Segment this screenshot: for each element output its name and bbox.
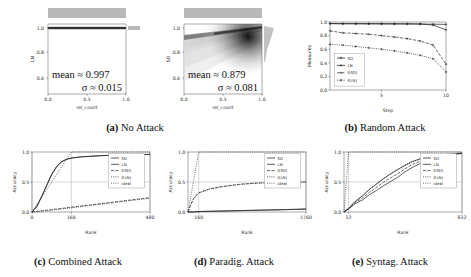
caption-c-text: Combined Attack [48,256,122,267]
annotation-sd-mean: mean ≈ 0.879 [188,69,245,80]
ytick-e-0.0: 0.0 [334,210,341,215]
series-marker-LN [367,22,369,24]
ytick-sd-1.0: 1.0 [173,26,180,31]
ytick-d-0.0: 0.0 [178,210,185,215]
legend-label-SD: SD [278,156,283,161]
xtick-b-10: 10 [443,93,449,98]
legend-label-ideal: ideal [122,181,131,186]
xlabel-ln: rel_count [76,105,97,111]
legend-label-fSD: f(SD) [434,168,444,173]
xtick-c-480: 480 [146,215,155,220]
caption-c: (c) Combined Attack [2,256,154,267]
annotation-ln-mean: mean ≈ 0.997 [52,69,109,80]
panel-a-svg: 1.0 0.8 0.6 0.0 0.5 1.0 rel_count LN mea… [8,2,280,118]
panel-e-svg: 0.00.51.032832 Rank Accuracy SDLNf(SD)f(… [318,146,470,238]
legend-label-SD: SD [122,156,127,161]
series-marker-LN [406,23,408,25]
panel-c-combined-attack: 0.00.51.00160480 Rank Accuracy SDLNf(SD)… [6,146,158,238]
ytick-d-1.0: 1.0 [178,150,185,155]
xtick-sd-0.5: 0.5 [219,97,226,102]
series-marker-LN [445,29,447,31]
ytick-e-0.5: 0.5 [334,180,341,185]
series-marker-fSD [445,63,447,65]
xlabel-c: Rank [85,230,97,235]
caption-d-label: (d) [194,256,207,267]
series-marker-fSD [393,36,395,38]
legend-label-LN: LN [434,162,439,167]
panel-a-no-attack: 1.0 0.8 0.6 0.0 0.5 1.0 rel_count LN mea… [8,2,280,118]
caption-b-label: (b) [344,122,357,133]
figure-root: 1.0 0.8 0.6 0.0 0.5 1.0 rel_count LN mea… [0,0,471,277]
ytick-b-0.6: 0.6 [320,47,327,52]
series-marker-fSD [406,37,408,39]
legend-label-fSD: f(SD) [348,70,358,75]
ytick-ln-0.6: 0.6 [37,76,44,81]
ylabel-ln: LN [30,56,35,62]
density-ln [48,26,126,31]
subpanel-a-right-sd: 1.0 0.8 0.6 0.0 0.5 1.0 rel_count SD mea… [166,8,274,111]
legend-label-fLN: f(LN) [278,175,288,180]
legend-c: SDLNf(SD)f(LN)ideal [109,154,145,189]
ylabel-d: Accuracy [168,171,173,192]
xlabel-e: Rank [397,230,409,235]
series-marker-LN [355,22,357,24]
series-marker-fSD [329,30,331,32]
series-marker-fLN [367,47,369,49]
series-marker-fSD [380,34,382,36]
series-marker-fLN [329,43,331,45]
caption-e-text: Syntag. Attack [366,256,428,267]
legend-label-fLN: f(LN) [348,78,358,83]
legend-label-ideal: ideal [434,181,443,186]
legend-label-fSD: f(SD) [122,168,132,173]
ytick-b-1.0: 1.0 [320,20,327,25]
annotation-sd-sigma: σ ≈ 0.081 [218,82,258,93]
series-marker-fLN [393,50,395,52]
series-line-LN [330,24,446,30]
caption-a-text: No Attack [121,122,164,133]
legend-label-LN: LN [348,63,353,68]
ytick-c-0.0: 0.0 [22,210,29,215]
ytick-b-0.2: 0.2 [320,74,327,79]
ytick-e-1.0: 1.0 [334,150,341,155]
series-marker-fLN [380,48,382,50]
marginal-right-histogram-ln [128,26,140,30]
ytick-ln-1.0: 1.0 [37,26,44,31]
ylabel-e: Accuracy [324,171,329,192]
xtick-ln-0.0: 0.0 [44,97,51,102]
ylabel-c: Accuracy [12,171,17,192]
legend-e: SDLNf(SD)f(LN)ideal [421,154,457,189]
series-marker-LN [342,22,344,24]
xlabel-sd: rel_count [212,105,233,111]
series-marker-fSD [342,32,344,34]
xtick-e-32: 32 [346,215,352,220]
xtick-c-160: 160 [67,215,76,220]
caption-e-label: (e) [352,256,364,267]
xtick-ln-1.0: 1.0 [122,97,129,102]
legend-label-SD: SD [434,156,439,161]
series-marker-fSD [355,32,357,34]
annotation-ln-sigma: σ ≈ 0.015 [82,82,122,93]
panel-b-svg: 0.00.20.40.60.81.0510 Step Measures SDLN… [296,14,464,118]
xtick-d-1760: 1760 [300,215,312,220]
caption-b-text: Random Attack [360,122,426,133]
series-marker-fLN [419,54,421,56]
xlabel-b: Step [383,108,394,113]
xtick-ln-0.5: 0.5 [83,97,90,102]
ytick-b-0.0: 0.0 [320,88,327,93]
ytick-sd-0.6: 0.6 [173,76,180,81]
xtick-b-5: 5 [380,93,383,98]
xlabel-d: Rank [241,230,253,235]
ytick-b-0.8: 0.8 [320,33,327,38]
ylabel-sd: SD [166,55,171,62]
caption-d-text: Paradig. Attack [209,256,274,267]
legend-b: SDLNf(SD)f(LN) [335,54,365,87]
series-marker-fLN [355,45,357,47]
series-marker-fSD [367,33,369,35]
legend-d: SDLNf(SD)f(LN)ideal [265,154,301,189]
legend-label-fLN: f(LN) [434,175,444,180]
series-line-LN [188,209,306,212]
caption-a-label: (a) [106,122,118,133]
ytick-ln-0.8: 0.8 [37,50,44,55]
series-marker-fLN [432,58,434,60]
ytick-c-1.0: 1.0 [22,150,29,155]
